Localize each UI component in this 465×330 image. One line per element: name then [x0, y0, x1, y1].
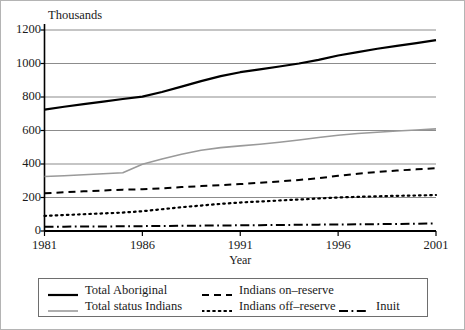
- chart-figure: Thousands 020040060080010001200 19811986…: [0, 0, 465, 330]
- legend-item: Inuit: [339, 298, 400, 315]
- legend-swatch-dashdot-black: [339, 302, 369, 312]
- legend-swatch-solid-gray-thin: [48, 302, 78, 312]
- y-axis-tick-label: 800: [1, 89, 41, 104]
- legend-label: Indians off–reserve: [239, 299, 336, 314]
- legend-swatch-dashed-black: [202, 286, 232, 296]
- legend-item: Indians off–reserve: [202, 298, 336, 315]
- chart-legend: Total AboriginalTotal status IndiansIndi…: [38, 278, 428, 317]
- legend-item: Indians on–reserve: [202, 282, 334, 299]
- legend-label: Total Aboriginal: [85, 283, 167, 298]
- y-axis-tick-label: 600: [1, 123, 41, 138]
- x-axis-tick-label: 1986: [117, 238, 167, 253]
- x-axis-tick-label: 1991: [215, 238, 265, 253]
- y-axis-tick-label: 400: [1, 156, 41, 171]
- legend-item: Total Aboriginal: [48, 282, 167, 299]
- x-axis-tick-label: 1981: [20, 238, 70, 253]
- x-axis-title: Year: [210, 253, 270, 268]
- legend-label: Inuit: [376, 299, 400, 314]
- x-axis-tick-label: 1996: [313, 238, 363, 253]
- y-axis-tick-label: 200: [1, 190, 41, 205]
- y-axis-tick-label: 1200: [1, 22, 41, 37]
- x-axis-tick-label: 2001: [411, 238, 461, 253]
- y-axis-tick-label: 0: [1, 223, 41, 238]
- legend-label: Indians on–reserve: [239, 283, 334, 298]
- legend-swatch-solid-black-thick: [48, 286, 78, 296]
- legend-swatch-dotted-black: [202, 302, 232, 312]
- legend-label: Total status Indians: [85, 299, 182, 314]
- y-axis-tick-label: 1000: [1, 56, 41, 71]
- legend-item: Total status Indians: [48, 298, 182, 315]
